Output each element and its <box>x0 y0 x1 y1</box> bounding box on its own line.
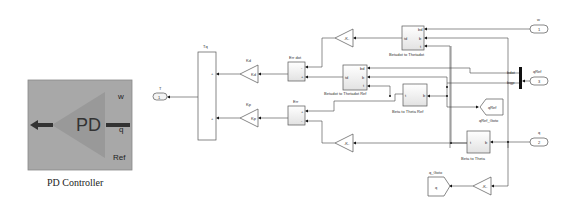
port-bd: bd <box>418 27 422 32</box>
ref-port-td: td <box>345 75 348 80</box>
output-arrow-icon <box>36 123 53 127</box>
betadot-to-thetadot-block[interactable]: td bd b t Betadot to Thetadot <box>389 26 425 57</box>
inport-w-label: w <box>537 17 540 22</box>
beta-to-theta-ref-label: Beta to Theta Ref <box>392 109 424 114</box>
err-dot-label: Err dot <box>289 55 302 60</box>
ref-port-bd: bd <box>360 66 364 71</box>
kd-text: Kd <box>251 72 256 77</box>
err-label: Err <box>293 99 299 104</box>
demux-block[interactable]: bdot bigp <box>507 67 522 89</box>
outport-label: T <box>159 86 162 91</box>
q-goto-block[interactable]: q q_Goto <box>428 170 450 196</box>
gain-lower-block[interactable]: -K- <box>335 134 353 152</box>
inport-qref[interactable]: 3 qRef <box>530 69 548 85</box>
tq-sum-block[interactable]: Tq + + <box>198 44 216 140</box>
betadot-to-thetadot-ref-block[interactable]: td bd b t Betadot to Thetadot Ref <box>324 65 367 96</box>
inport-w[interactable]: 1 w <box>530 17 548 33</box>
kp-text: Kp <box>251 116 257 121</box>
betadot-to-thetadot-label: Betadot to Thetadot <box>389 52 425 57</box>
beta-to-theta-block[interactable]: t b Beta to Theta <box>461 131 490 161</box>
inport-q[interactable]: 2 q <box>530 130 548 146</box>
kd-label: Kd <box>246 58 251 63</box>
gain-bottom-block[interactable]: -K- <box>473 177 491 195</box>
err-sum-block[interactable]: Err + - <box>288 99 305 125</box>
qref-goto-block[interactable]: qRef qRef_Goto <box>479 99 503 123</box>
kp-label: Kp <box>246 102 252 107</box>
port-label-q: q <box>119 125 123 134</box>
inport-q-label: q <box>538 130 540 135</box>
err-dot-sum-block[interactable]: Err dot - + <box>288 55 305 81</box>
tq-label: Tq <box>203 44 208 49</box>
gain-bottom-text: -K- <box>482 184 488 189</box>
qref-goto-label: qRef_Goto <box>479 118 499 123</box>
betadot-to-thetadot-ref-label: Betadot to Thetadot Ref <box>324 91 367 96</box>
gain-upper-block[interactable]: -K- <box>335 29 353 47</box>
pd-controller-subsystem[interactable]: PD w q Ref PD Controller <box>28 80 132 188</box>
q-goto-label: q_Goto <box>429 170 443 175</box>
q-goto-text: q <box>435 185 437 190</box>
gain-upper-text: -K- <box>344 36 350 41</box>
input-arrow-icon <box>106 123 130 127</box>
demux-port-bdot: bdot <box>507 70 516 75</box>
port-label-ref: Ref <box>113 153 126 162</box>
kp-gain-block[interactable]: Kp Kp <box>240 102 258 127</box>
qref-goto-text: qRef <box>488 105 497 110</box>
beta-to-theta-ref-block[interactable]: t b Beta to Theta Ref <box>392 84 427 114</box>
port-label-w: w <box>117 92 124 101</box>
gain-lower-text: -K- <box>344 141 350 146</box>
subsystem-icon-text: PD <box>76 115 101 135</box>
inport-qref-label: qRef <box>533 69 542 74</box>
outport-t[interactable]: 1 T <box>153 86 167 100</box>
kd-gain-block[interactable]: Kd Kd <box>240 58 258 83</box>
beta-to-theta-label: Beta to Theta <box>461 156 486 161</box>
demux-port-bigp: bigp <box>507 80 515 85</box>
port-td: td <box>404 36 407 41</box>
subsystem-name: PD Controller <box>47 177 104 188</box>
